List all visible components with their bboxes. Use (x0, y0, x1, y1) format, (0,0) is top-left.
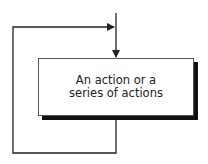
action-box: An action or a series of actions (38, 58, 194, 116)
loop-diagram: An action or a series of actions (0, 0, 208, 164)
action-box-line-2: series of actions (69, 87, 163, 100)
